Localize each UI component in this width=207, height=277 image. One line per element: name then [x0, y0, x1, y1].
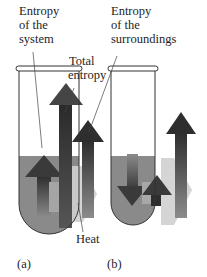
- label-entropy-surroundings: Entropy of the surroundings: [111, 4, 176, 46]
- label-surr-line2: of the: [111, 18, 176, 32]
- tube-b-rim: [108, 66, 158, 71]
- label-total-line2: entropy: [68, 68, 106, 82]
- panel-b: [108, 66, 196, 225]
- label-system-line2: of the: [19, 18, 59, 32]
- panel-a: [16, 66, 104, 234]
- label-system-line1: Entropy: [19, 4, 59, 18]
- label-panel-b: (b): [107, 257, 122, 271]
- label-surr-line1: Entropy: [111, 4, 176, 18]
- label-entropy-system: Entropy of the system: [19, 4, 59, 46]
- label-heat: Heat: [76, 232, 100, 246]
- label-total-entropy: Total entropy: [68, 54, 106, 82]
- label-surr-line3: surroundings: [111, 32, 176, 46]
- label-total-line1: Total: [68, 54, 106, 68]
- label-panel-a: (a): [17, 257, 31, 271]
- label-system-line3: system: [19, 32, 59, 46]
